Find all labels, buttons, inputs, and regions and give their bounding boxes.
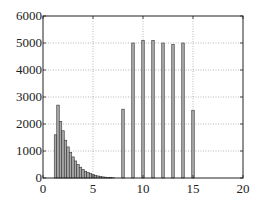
histogram-bar: [72, 157, 75, 178]
histogram-bar: [69, 152, 72, 178]
histogram-bar: [142, 40, 145, 178]
histogram-bar: [84, 171, 87, 178]
x-axis-tick-labels: 05101520: [40, 181, 250, 196]
x-tick-label: 10: [137, 181, 150, 196]
histogram-bar: [77, 165, 80, 179]
x-tick-label: 5: [90, 181, 97, 196]
histogram-bar: [74, 161, 77, 178]
histogram-bar: [62, 131, 65, 178]
histogram-bar: [54, 135, 57, 178]
histogram-bars: [54, 40, 194, 178]
histogram-bar: [57, 105, 60, 178]
histogram-bar: [79, 167, 82, 178]
histogram-bar: [59, 121, 62, 178]
x-tick-label: 15: [187, 181, 200, 196]
y-tick-label: 0: [36, 170, 43, 185]
x-tick-label: 20: [237, 181, 250, 196]
y-tick-label: 5000: [16, 35, 42, 50]
histogram-bar: [122, 109, 125, 178]
histogram-bar: [162, 43, 165, 178]
histogram-bar: [87, 173, 90, 178]
y-tick-label: 1000: [16, 143, 42, 158]
histogram-bar: [132, 43, 135, 178]
y-axis-tick-labels: 0100020003000400050006000: [16, 8, 42, 185]
histogram-bar: [64, 140, 67, 178]
histogram-bar: [192, 111, 195, 179]
histogram-chart: 05101520 0100020003000400050006000: [0, 0, 260, 205]
y-tick-label: 4000: [16, 62, 42, 77]
y-tick-label: 3000: [16, 89, 42, 104]
histogram-bar: [152, 40, 155, 178]
histogram-bar: [67, 147, 70, 178]
histogram-bar: [182, 43, 185, 178]
y-tick-label: 2000: [16, 116, 42, 131]
histogram-bar: [89, 174, 92, 178]
histogram-bar: [172, 44, 175, 178]
histogram-bar: [82, 169, 85, 178]
y-tick-label: 6000: [16, 8, 42, 23]
